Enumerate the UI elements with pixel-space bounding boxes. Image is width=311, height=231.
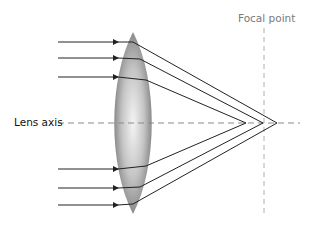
focal-point-label: Focal point xyxy=(238,12,295,24)
lens-axis-label: Lens axis xyxy=(14,116,63,128)
refracted-rays xyxy=(133,42,277,204)
